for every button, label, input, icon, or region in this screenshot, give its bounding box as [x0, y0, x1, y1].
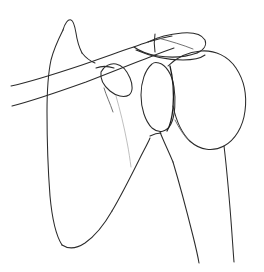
- anatomy-svg-canvas: [0, 0, 264, 272]
- canvas-background: [0, 0, 264, 272]
- shoulder-line-drawing-figure: [0, 0, 264, 272]
